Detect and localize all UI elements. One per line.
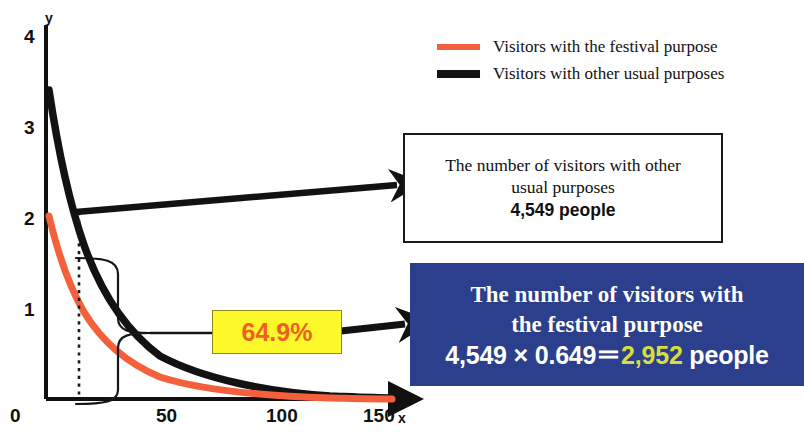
legend-item-other-usual-purposes: Visitors with other usual purposes: [437, 60, 797, 87]
x-tick-0: 0: [10, 406, 21, 425]
chart-legend: Visitors with the festival purpose Visit…: [437, 33, 797, 87]
arrow-to-festival-callout: [341, 324, 405, 331]
ratio-badge: 64.9%: [212, 310, 342, 354]
legend-label-festival-purpose: Visitors with the festival purpose: [493, 37, 718, 57]
series-line-festival-purpose: [49, 216, 392, 399]
calc-highlight-result: 2,952: [621, 341, 683, 369]
y-tick-2: 2: [24, 209, 35, 228]
calc-suffix: people: [683, 341, 769, 369]
festival-callout-line2: the festival purpose: [511, 310, 703, 340]
festival-purpose-callout-box: The number of visitors with the festival…: [410, 263, 804, 386]
ratio-badge-value: 64.9%: [242, 320, 313, 345]
x-tick-100: 100: [266, 406, 298, 425]
calc-prefix: 4,549 × 0.649＝: [445, 341, 621, 369]
orange-line-swatch-icon: [437, 44, 480, 50]
festival-callout-line1: The number of visitors with: [470, 280, 743, 310]
y-axis-variable-label: y: [45, 11, 53, 25]
other-purposes-callout-line1: The number of visitors with other: [445, 154, 681, 176]
other-purposes-callout-line2: usual purposes: [511, 176, 615, 198]
other-purposes-callout-value: 4,549 people: [510, 199, 615, 223]
y-tick-1: 1: [24, 300, 35, 319]
x-tick-150: 150: [363, 406, 395, 425]
legend-item-festival-purpose: Visitors with the festival purpose: [437, 33, 797, 60]
chart-figure: y 4 3 2 1 0 50 100 150 x Visitors with t…: [0, 0, 804, 439]
value-brace: [76, 258, 150, 404]
y-tick-4: 4: [24, 27, 35, 46]
legend-label-other-usual-purposes: Visitors with other usual purposes: [493, 64, 724, 84]
other-purposes-callout-box: The number of visitors with other usual …: [403, 133, 723, 243]
x-axis-variable-label: x: [398, 411, 406, 425]
festival-callout-calculation: 4,549 × 0.649＝2,952 people: [445, 340, 769, 371]
y-tick-3: 3: [24, 118, 35, 137]
x-tick-50: 50: [156, 406, 177, 425]
arrow-to-other-purposes-callout: [76, 185, 397, 212]
black-line-swatch-icon: [437, 70, 480, 78]
